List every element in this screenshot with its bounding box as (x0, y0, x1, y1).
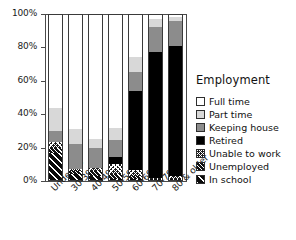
bar-segment (48, 142, 63, 148)
legend-item-label: Part time (209, 109, 252, 120)
bar-segment (48, 108, 63, 131)
legend-item-label: Unemployed (209, 161, 269, 172)
bar-segment (68, 14, 83, 129)
bar-segment (128, 91, 143, 170)
bar-segment (168, 14, 183, 17)
y-axis-tick (41, 81, 45, 82)
bar-segment (68, 129, 83, 144)
legend-swatch-icon (196, 136, 205, 145)
bar-segment (68, 169, 83, 171)
y-axis-tick (41, 148, 45, 149)
legend-swatch-icon (196, 123, 205, 132)
bar-stack (48, 14, 63, 181)
legend-item-label: Retired (209, 135, 243, 146)
legend-swatch-icon (196, 110, 205, 119)
bar-stack (68, 14, 83, 181)
bar-segment (108, 164, 123, 174)
bar-segment (108, 140, 123, 157)
y-axis-line (45, 14, 46, 182)
bar-stack (88, 14, 103, 181)
bar-segment (148, 14, 163, 19)
y-axis-tick (41, 47, 45, 48)
bar-segment (108, 128, 123, 141)
bar-segment (48, 14, 63, 108)
plot-area: 0%20%40%60%80%100%Under 3030-3940-4950-5… (0, 0, 296, 240)
bar-segment (168, 17, 183, 21)
bar-stack (108, 14, 123, 181)
bar-segment (48, 131, 63, 142)
bar-segment (88, 139, 103, 148)
y-axis-tick (41, 181, 45, 182)
bar-segment (128, 57, 143, 72)
bar-stack (128, 14, 143, 181)
bar-segment (148, 52, 163, 177)
y-axis-tick (41, 114, 45, 115)
legend-item-label: In school (209, 174, 251, 185)
bar-segment (88, 168, 103, 171)
y-axis-tick-label: 0% (3, 176, 37, 185)
bar-segment (168, 21, 183, 46)
legend-item-label: Full time (209, 96, 250, 107)
legend-swatch-icon (196, 97, 205, 106)
bar-segment (88, 14, 103, 139)
bar-segment (88, 148, 103, 167)
legend-swatch-icon (196, 149, 205, 158)
legend-item-label: Keeping house (209, 122, 279, 133)
y-axis-tick (41, 14, 45, 15)
y-axis-tick-label: 60% (3, 76, 37, 85)
y-axis-tick-label: 40% (3, 109, 37, 118)
legend-item-label: Unable to work (209, 148, 281, 159)
legend-title: Employment (196, 74, 270, 86)
y-axis-tick-label: 100% (3, 9, 37, 18)
bar-segment (148, 19, 163, 27)
bar-stack (168, 14, 183, 181)
bar-segment (108, 157, 123, 165)
y-axis-tick-label: 80% (3, 42, 37, 51)
legend-swatch-icon (196, 175, 205, 184)
bar-segment (48, 148, 63, 153)
bar-segment (148, 27, 163, 53)
bar-segment (128, 72, 143, 90)
y-axis-tick-label: 20% (3, 143, 37, 152)
bar-stack (148, 14, 163, 181)
bar-segment (128, 14, 143, 57)
bar-segment (68, 144, 83, 169)
bar-segment (168, 46, 183, 176)
legend-swatch-icon (196, 162, 205, 171)
plot-frame-right (186, 14, 187, 182)
chart-figure: 0%20%40%60%80%100%Under 3030-3940-4950-5… (0, 0, 296, 240)
bar-segment (108, 14, 123, 128)
